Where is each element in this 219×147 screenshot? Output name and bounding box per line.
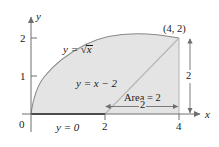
x-axis-label: x (205, 109, 210, 120)
x-tick-label-4: 4 (176, 121, 182, 132)
calculus-area-figure: y x 0 1 2 2 4 y = √x y = x − 2 y = 0 (4,… (0, 0, 219, 147)
radical-sign: √x (81, 44, 92, 55)
sqrt-curve-equation-label: y = √x (63, 44, 92, 55)
origin-label: 0 (19, 119, 25, 130)
vertex-point-label: (4, 2) (163, 24, 186, 35)
y-axis-label: y (36, 11, 41, 22)
y-tick-label-1: 1 (20, 71, 26, 82)
baseline-equation-label: y = 0 (56, 122, 79, 133)
y-tick-label-2: 2 (20, 33, 26, 44)
radical-overbar (86, 45, 93, 46)
x-tick-label-2: 2 (102, 121, 108, 132)
diagonal-line-equation-label: y = x − 2 (76, 78, 117, 89)
sqrt-equation-lead: y = (63, 43, 81, 55)
horizontal-dimension-label: 2 (139, 100, 146, 111)
vertical-dimension-label: 2 (186, 70, 191, 83)
